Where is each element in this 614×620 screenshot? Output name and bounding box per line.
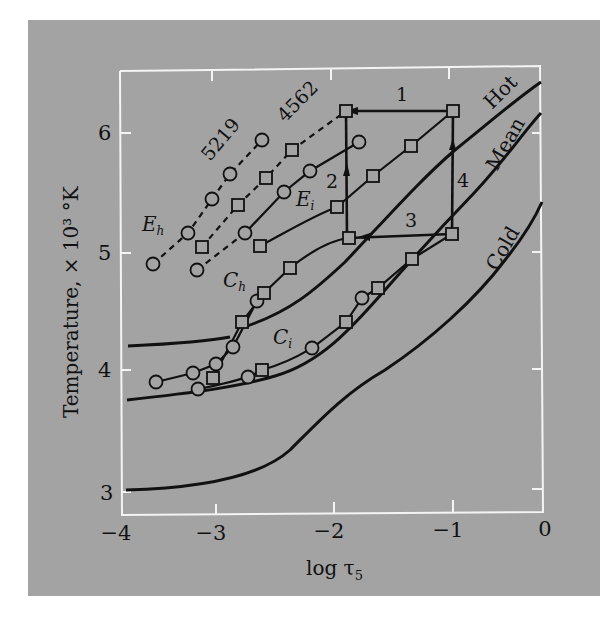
label-ch: Ch	[223, 268, 246, 294]
x-tick-labels: −4 −3 −2 −1 0	[101, 517, 552, 545]
y-tick-5: 5	[98, 241, 111, 265]
x-ticks	[212, 67, 453, 514]
y-tick-labels: 6 5 4 3	[98, 121, 113, 505]
arrow-4	[452, 111, 453, 234]
label-eh: Eh	[141, 212, 164, 238]
y-axis-label: Temperature, × 10³ °K	[59, 185, 83, 418]
x-tick-0: 0	[538, 517, 551, 541]
label-4562: 4562	[272, 76, 322, 126]
label-transition-2: 2	[326, 170, 338, 192]
x-tick-neg2: −2	[314, 519, 345, 543]
chart: 6 5 4 3 −4 −3 −2 −1 0 log τ5 Temperature…	[0, 0, 614, 620]
label-transition-3: 3	[405, 209, 417, 231]
x-tick-neg3: −3	[196, 521, 227, 545]
label-5219: 5219	[196, 113, 244, 164]
x-tick-neg1: −1	[433, 518, 464, 542]
label-hot: Hot	[479, 70, 523, 114]
ch-4562-line	[213, 238, 349, 378]
y-tick-4: 4	[98, 358, 111, 382]
y-tick-3: 3	[100, 481, 113, 505]
curve-cold	[126, 202, 542, 490]
y-tick-6: 6	[98, 121, 111, 145]
label-transition-4: 4	[457, 169, 469, 191]
label-ei: Ei	[295, 187, 315, 213]
label-cold: Cold	[481, 222, 525, 274]
label-ci: Ci	[273, 325, 292, 351]
arrow-2-head-icon	[343, 163, 350, 176]
arrow-4-head-icon	[449, 138, 456, 150]
x-tick-neg4: −4	[101, 521, 132, 545]
x-axis-label: log τ5	[306, 556, 363, 583]
label-transition-1: 1	[396, 83, 408, 105]
curve-hot-lower	[128, 337, 230, 346]
transition-arrows	[343, 107, 456, 241]
